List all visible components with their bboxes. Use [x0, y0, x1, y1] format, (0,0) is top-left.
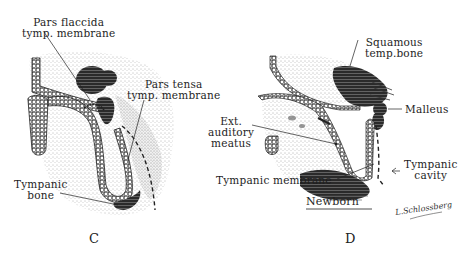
label-pars-flaccida-line2: tymp. membrane — [22, 28, 115, 39]
panel-letter-d: D — [345, 231, 355, 246]
label-pars-flaccida: Pars flaccida tymp. membrane — [22, 17, 115, 39]
label-malleus: Malleus — [405, 104, 449, 115]
label-ext-auditory-meatus: Ext. auditory meatus — [208, 116, 254, 149]
label-tympanic-cavity: Tympanic cavity — [404, 159, 457, 181]
label-squamous-line2: temp.bone — [365, 48, 423, 59]
label-tympanic-bone: Tympanic bone — [14, 179, 67, 201]
label-tympanic-bone-line2: bone — [14, 190, 67, 201]
label-tympanic-cavity-line2: cavity — [404, 170, 457, 181]
label-pars-tensa-line2: tymp. membrane — [127, 90, 220, 101]
caption-newborn: Newborn — [306, 196, 359, 207]
label-squamous-temp-bone: Squamous temp.bone — [365, 37, 423, 59]
label-tympanic-membrane: Tympanic membrane — [216, 175, 332, 186]
label-ext-auditory-meatus-line3: meatus — [208, 138, 254, 149]
panel-d-drawing — [252, 40, 442, 219]
label-pars-tensa: Pars tensa tymp. membrane — [127, 79, 220, 101]
panel-letter-c: C — [89, 231, 99, 246]
ear-development-figure: Pars flaccida tymp. membrane Pars tensa … — [0, 0, 476, 260]
